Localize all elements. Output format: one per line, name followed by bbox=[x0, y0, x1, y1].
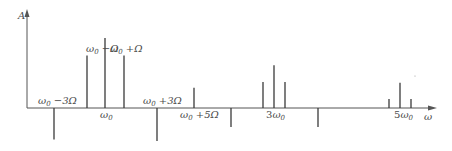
label-5w0: 5ω0 bbox=[394, 109, 414, 122]
y-axis-arrow-icon bbox=[25, 9, 30, 17]
label-w0-minus-3omega: ω0 −3Ω bbox=[38, 95, 77, 108]
y-axis-label: A bbox=[17, 10, 25, 21]
label-w0-plus-omega: ω0 +Ω bbox=[110, 43, 142, 56]
stray-dot bbox=[414, 75, 415, 76]
x-axis-label: ω bbox=[424, 111, 432, 122]
label-w0-plus-5omega: ω0 +5Ω bbox=[180, 109, 219, 122]
label-3w0: 3ω0 bbox=[266, 109, 286, 122]
x-axis-arrow-icon bbox=[428, 106, 437, 111]
label-w0: ω0 bbox=[100, 109, 113, 122]
spectrum-diagram: A ω ω0 −Ω ω0 +Ω ω0 −3Ω ω0 ω0 +3Ω ω0 +5Ω … bbox=[0, 0, 452, 151]
label-w0-plus-3omega: ω0 +3Ω bbox=[143, 95, 182, 108]
